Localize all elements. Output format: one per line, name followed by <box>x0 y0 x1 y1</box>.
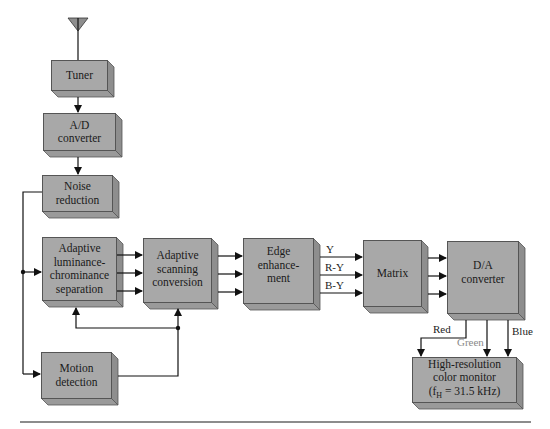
block-monitor-line1: High-resolution <box>428 358 501 372</box>
block-da-line1: D/A <box>473 259 493 273</box>
block-lum-line3: chrominance <box>50 269 109 283</box>
signal-label-blue: Blue <box>512 325 533 337</box>
block-noise-reduction: Noise reduction <box>42 175 113 212</box>
block-lum-line2: luminance- <box>54 256 106 270</box>
block-ad-converter: A/D converter <box>43 113 116 151</box>
block-motion-line1: Motion <box>60 362 94 376</box>
block-ad-line2: converter <box>58 132 101 146</box>
bottom-rule <box>20 421 531 423</box>
block-adaptive-scanning-conversion: Adaptive scanning conversion <box>143 238 212 303</box>
block-scan-line1: Adaptive <box>156 249 198 263</box>
block-edge-enhancement: Edge enhance- ment <box>243 238 314 304</box>
block-lum-line1: Adaptive <box>58 242 100 256</box>
signal-label-b-y: B-Y <box>325 279 344 291</box>
block-da-line2: converter <box>461 273 504 287</box>
block-monitor: High-resolution color monitor (fH = 31.5… <box>412 357 517 403</box>
block-edge-line2: enhance- <box>258 259 300 273</box>
signal-label-red: Red <box>433 323 451 335</box>
block-tuner-label: Tuner <box>66 69 93 83</box>
block-motion-detection: Motion detection <box>41 352 112 399</box>
signal-label-green: Green <box>457 336 484 348</box>
block-edge-line1: Edge <box>267 245 291 259</box>
block-matrix-label: Matrix <box>377 267 408 281</box>
block-noise-line1: Noise <box>64 180 91 194</box>
formula-suffix: = 31.5 kHz) <box>442 385 500 397</box>
signal-label-y: Y <box>326 243 334 255</box>
antenna-icon <box>68 18 88 60</box>
block-noise-line2: reduction <box>56 194 99 208</box>
block-matrix: Matrix <box>363 240 422 307</box>
block-ad-line1: A/D <box>70 119 90 133</box>
block-da-converter: D/A converter <box>447 241 519 314</box>
block-monitor-line2: color monitor <box>433 371 496 385</box>
block-scan-line3: conversion <box>152 276 202 290</box>
signal-label-r-y: R-Y <box>325 261 344 273</box>
block-tuner: Tuner <box>51 60 108 91</box>
block-adaptive-luminance-chrominance-separation: Adaptive luminance- chrominance separati… <box>42 237 117 301</box>
block-scan-line2: scanning <box>157 263 198 277</box>
block-lum-line4: separation <box>56 283 103 297</box>
block-motion-line2: detection <box>55 376 97 390</box>
block-edge-line3: ment <box>267 272 290 286</box>
block-monitor-formula: (fH = 31.5 kHz) <box>429 385 501 403</box>
